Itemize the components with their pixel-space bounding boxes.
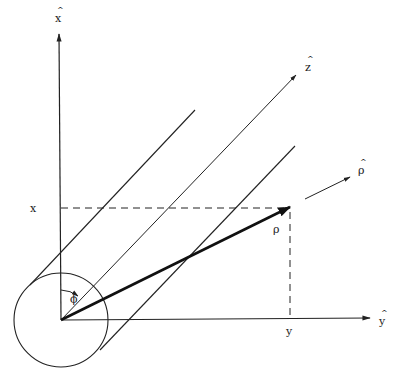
rho-vector <box>61 207 290 320</box>
y-projection-label: y <box>285 325 293 338</box>
cylindrical-coordinates-diagram: ^ x ^ z ^ y ^ ρ ρ ϕ x y <box>0 0 396 381</box>
phi-label: ϕ <box>70 293 78 306</box>
rho-label: ρ <box>273 223 279 236</box>
svg-text:y: y <box>378 315 386 328</box>
x-axis <box>59 34 61 320</box>
svg-text:ρ: ρ <box>358 164 364 177</box>
x-projection-label: x <box>30 202 37 215</box>
y-axis <box>61 318 370 320</box>
svg-text:z: z <box>305 61 311 74</box>
z-axis <box>61 75 296 320</box>
y-axis-label: ^ y <box>378 308 388 328</box>
z-axis-label: ^ z <box>305 54 314 74</box>
cylinder-edge-upper <box>30 110 195 285</box>
svg-text:x: x <box>55 12 62 25</box>
rho-hat-label: ^ ρ <box>358 157 367 177</box>
rho-hat-vector <box>305 177 350 199</box>
x-axis-label: ^ x <box>55 5 64 25</box>
